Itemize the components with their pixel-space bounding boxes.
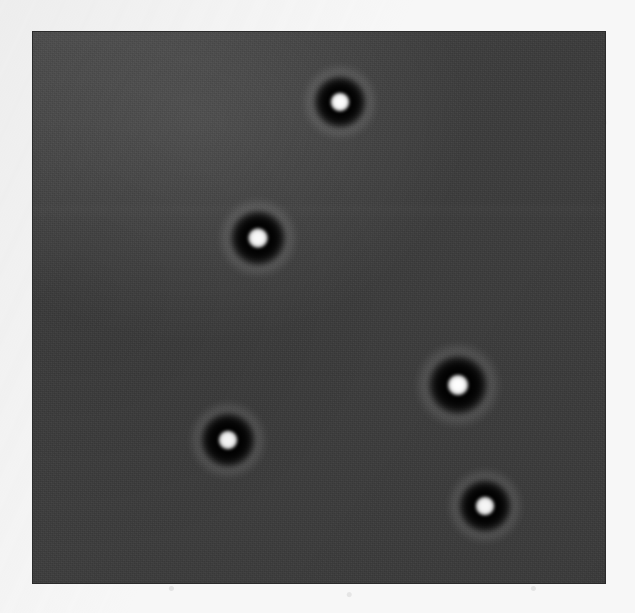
micrograph-panel — [33, 32, 605, 583]
particle-marker — [414, 341, 502, 429]
particle-halo — [217, 197, 299, 279]
particle-dark-ring — [200, 412, 257, 469]
field-scan-banding — [33, 32, 605, 583]
particle-bright-core — [475, 496, 496, 517]
particle-halo — [414, 341, 502, 429]
particle-halo — [301, 63, 379, 141]
particle-dark-ring — [427, 354, 489, 416]
particle-halo — [446, 467, 524, 545]
particle-marker — [446, 467, 524, 545]
particle-halo — [188, 400, 268, 480]
scan-page — [0, 0, 635, 613]
particle-bright-core — [330, 92, 351, 113]
field-illumination-gradient — [33, 32, 605, 583]
particle-bright-core — [447, 374, 470, 397]
particle-marker — [301, 63, 379, 141]
particle-dark-ring — [313, 75, 368, 130]
particle-marker — [188, 400, 268, 480]
particle-dark-ring — [458, 479, 513, 534]
particle-dark-ring — [229, 209, 287, 267]
particle-bright-core — [247, 227, 269, 249]
particle-bright-core — [218, 430, 239, 451]
particle-marker — [217, 197, 299, 279]
field-sensor-grain — [33, 32, 605, 583]
